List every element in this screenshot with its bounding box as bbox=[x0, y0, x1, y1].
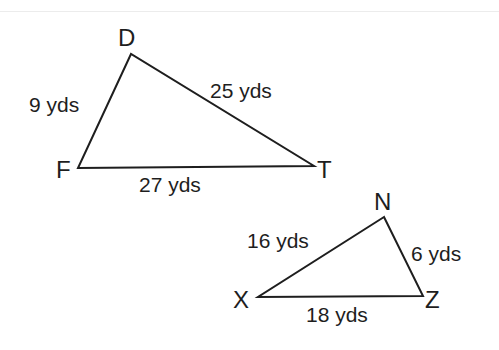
side-label-xn: 16 yds bbox=[247, 229, 309, 252]
side-label-xz: 18 yds bbox=[306, 303, 368, 326]
vertex-label-x: X bbox=[233, 286, 249, 313]
side-label-df: 9 yds bbox=[29, 93, 79, 116]
side-label-ft: 27 yds bbox=[139, 173, 201, 196]
triangle-dft: D F T 9 yds 25 yds 27 yds bbox=[29, 24, 332, 196]
vertex-label-t: T bbox=[317, 156, 332, 183]
triangle-dft-shape bbox=[78, 54, 314, 168]
vertex-label-f: F bbox=[56, 156, 71, 183]
vertex-label-z: Z bbox=[425, 286, 440, 313]
side-label-nz: 6 yds bbox=[411, 242, 461, 265]
vertex-label-n: N bbox=[374, 188, 391, 215]
triangle-nxz: N X Z 16 yds 6 yds 18 yds bbox=[233, 188, 461, 326]
similar-triangles-diagram: D F T 9 yds 25 yds 27 yds N X Z 16 yds 6… bbox=[0, 0, 499, 350]
vertex-label-d: D bbox=[118, 24, 135, 51]
side-label-dt: 25 yds bbox=[210, 79, 272, 102]
